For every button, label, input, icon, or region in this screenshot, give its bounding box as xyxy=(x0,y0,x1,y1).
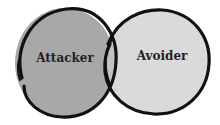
attacker-label: Attacker xyxy=(36,51,94,65)
avoider-label: Avoider xyxy=(137,49,188,63)
venn-diagram: Attacker Avoider xyxy=(0,0,220,125)
